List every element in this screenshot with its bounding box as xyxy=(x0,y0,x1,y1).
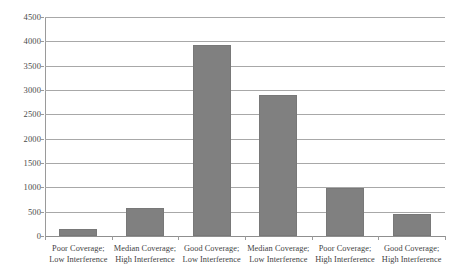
bar xyxy=(393,214,431,236)
y-tick-label: 2000 xyxy=(5,135,41,144)
x-tick-label-line1: Good Coverage; xyxy=(184,244,239,253)
y-tick-mark xyxy=(40,187,44,188)
x-tick-mark xyxy=(312,236,313,240)
gridline xyxy=(45,187,445,188)
y-tick-mark xyxy=(40,163,44,164)
bar xyxy=(126,208,164,236)
y-tick-label: 3500 xyxy=(5,62,41,71)
x-tick-mark xyxy=(245,236,246,240)
gridline xyxy=(45,90,445,91)
x-tick-mark xyxy=(178,236,179,240)
y-tick-label: 2500 xyxy=(5,110,41,119)
x-tick-label: Median Coverage;Low Interference xyxy=(245,243,312,265)
gridline xyxy=(45,66,445,67)
y-tick-mark xyxy=(40,212,44,213)
x-tick-label-line2: High Interference xyxy=(312,254,379,265)
bar xyxy=(326,188,364,236)
y-tick-mark xyxy=(40,114,44,115)
x-tick-label-line2: Low Interference xyxy=(178,254,245,265)
gridline xyxy=(45,17,445,18)
y-tick-mark xyxy=(40,139,44,140)
y-tick-label: 3000 xyxy=(5,86,41,95)
x-tick-label: Median Coverage;High Interference xyxy=(112,243,179,265)
plot-area xyxy=(45,17,445,236)
x-tick-label: Poor Coverage;Low Interference xyxy=(45,243,112,265)
bar xyxy=(59,229,97,236)
x-tick-mark xyxy=(112,236,113,240)
x-tick-label-line2: Low Interference xyxy=(45,254,112,265)
y-tick-label: 1000 xyxy=(5,183,41,192)
x-tick-mark xyxy=(445,236,446,240)
gridline xyxy=(45,114,445,115)
x-tick-label-line2: High Interference xyxy=(378,254,445,265)
x-tick-label: Good Coverage;Low Interference xyxy=(178,243,245,265)
gridline xyxy=(45,41,445,42)
y-tick-label: 500 xyxy=(5,208,41,217)
x-tick-label-line2: Low Interference xyxy=(245,254,312,265)
y-tick-mark xyxy=(40,236,44,237)
bar xyxy=(259,95,297,236)
bar xyxy=(193,45,231,236)
y-tick-mark xyxy=(40,66,44,67)
x-tick-label-line1: Good Coverage; xyxy=(384,244,439,253)
x-tick-mark xyxy=(45,236,46,240)
x-tick-label-line1: Poor Coverage; xyxy=(319,244,372,253)
x-tick-label: Good Coverage;High Interference xyxy=(378,243,445,265)
y-tick-label: 4000 xyxy=(5,37,41,46)
x-tick-label-line2: High Interference xyxy=(112,254,179,265)
y-tick-label: 0 xyxy=(5,232,41,241)
y-tick-label: 4500 xyxy=(5,13,41,22)
y-tick-mark xyxy=(40,17,44,18)
x-tick-label-line1: Median Coverage; xyxy=(114,244,176,253)
x-tick-label-line1: Median Coverage; xyxy=(247,244,309,253)
x-tick-mark xyxy=(378,236,379,240)
bar-chart: 450040003500300025002000150010005000 Poo… xyxy=(0,0,460,277)
gridline xyxy=(45,163,445,164)
gridline xyxy=(45,139,445,140)
y-tick-label: 1500 xyxy=(5,159,41,168)
x-tick-label: Poor Coverage;High Interference xyxy=(312,243,379,265)
y-tick-mark xyxy=(40,41,44,42)
gridline xyxy=(45,212,445,213)
y-tick-mark xyxy=(40,90,44,91)
x-tick-label-line1: Poor Coverage; xyxy=(52,244,105,253)
